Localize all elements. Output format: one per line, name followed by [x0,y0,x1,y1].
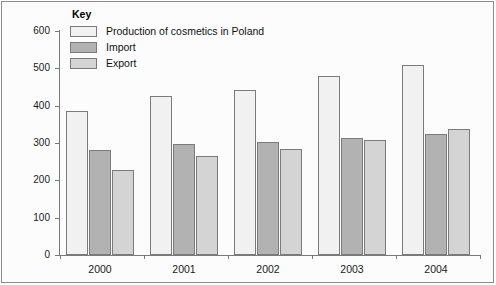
legend-item: Import [70,41,264,54]
legend-items: Production of cosmetics in PolandImportE… [70,25,264,70]
legend-swatch-production [70,26,97,37]
y-tick-label: 0 [44,248,50,261]
x-axis-line [59,255,481,256]
y-tick-300: 300 [55,143,60,144]
bar [402,65,424,255]
x-tick [312,255,313,259]
x-tick [480,255,481,259]
legend: Key Production of cosmetics in PolandImp… [70,8,264,73]
y-tick-label: 100 [33,211,50,224]
bar [234,90,256,255]
x-axis-label-2001: 2001 [172,263,195,275]
x-axis-label-2004: 2004 [424,263,447,275]
legend-swatch-export [70,58,97,69]
bar [89,150,111,255]
legend-item: Export [70,57,264,70]
y-tick-label: 200 [33,173,50,186]
y-tick-400: 400 [55,106,60,107]
legend-item: Production of cosmetics in Poland [70,25,264,38]
bar [364,140,386,255]
legend-swatch-import [70,42,97,53]
bar [150,96,172,255]
x-tick [228,255,229,259]
bar [66,111,88,255]
y-tick-500: 500 [55,68,60,69]
bar-chart: 0100200300400500600 20002001200220032004… [0,0,496,285]
legend-label: Production of cosmetics in Poland [106,25,264,38]
bar [448,129,470,255]
legend-label: Export [106,57,136,70]
y-tick-label: 400 [33,99,50,112]
bar [318,76,340,255]
y-tick-label: 300 [33,136,50,149]
legend-label: Import [106,41,136,54]
x-tick [60,255,61,259]
bar [425,134,447,255]
y-tick-100: 100 [55,218,60,219]
y-tick-600: 600 [55,31,60,32]
bar [341,138,363,255]
x-tick [144,255,145,259]
x-axis-label-2003: 2003 [340,263,363,275]
x-axis-label-2002: 2002 [256,263,279,275]
bar [257,142,279,255]
bar [112,170,134,255]
y-tick-label: 500 [33,61,50,74]
x-axis-label-2000: 2000 [88,263,111,275]
bar [173,144,195,255]
bar [280,149,302,255]
y-tick-label: 600 [33,24,50,37]
x-tick [396,255,397,259]
y-tick-200: 200 [55,180,60,181]
legend-title: Key [72,8,264,20]
bar [196,156,218,255]
